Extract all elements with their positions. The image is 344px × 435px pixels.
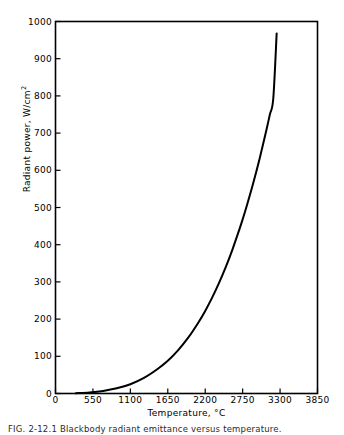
figure-caption: FIG. 2-12.1 Blackbody radiant emittance … [8, 424, 338, 434]
y-tick-label-400: 400 [18, 240, 52, 249]
y-tick-label-100: 100 [18, 352, 52, 361]
x-tick-label-0: 0 [52, 396, 58, 405]
y-tick-label-200: 200 [18, 315, 52, 324]
y-tick-label-1000: 1000 [18, 17, 52, 26]
x-tick-label-2200: 2200 [193, 396, 217, 405]
x-tick-label-2750: 2750 [231, 396, 255, 405]
axis-frame [56, 22, 318, 394]
data-series-blackbody-radiant-power [76, 33, 277, 393]
y-axis-title-exponent: 2 [20, 86, 28, 90]
x-tick-label-3850: 3850 [305, 396, 329, 405]
x-axis-title: Temperature, °C [55, 408, 318, 418]
y-axis-title: Radiant power, W/cm2 [20, 39, 32, 239]
y-tick-label-300: 300 [18, 277, 52, 286]
x-tick-label-3300: 3300 [268, 396, 292, 405]
x-tick-label-1100: 1100 [118, 396, 142, 405]
x-tick-label-1650: 1650 [156, 396, 180, 405]
y-axis-title-text: Radiant power, W/cm [22, 90, 32, 192]
x-tick-label-550: 550 [84, 396, 102, 405]
figure-blackbody-radiant-power: 01002003004005006007008009001000 Radiant… [0, 0, 344, 435]
